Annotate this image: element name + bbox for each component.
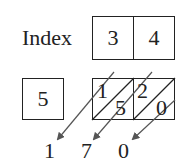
cell-1-ones: 5	[115, 97, 126, 119]
result-digit-hundreds: 1	[44, 140, 55, 162]
diagonals-and-arrows	[0, 0, 190, 168]
result-digit-ones: 0	[118, 140, 129, 162]
cell-2-ones: 0	[156, 97, 167, 119]
cell-2-tens: 2	[137, 80, 148, 102]
result-digit-tens: 7	[81, 140, 92, 162]
cell-1-tens: 1	[97, 80, 108, 102]
